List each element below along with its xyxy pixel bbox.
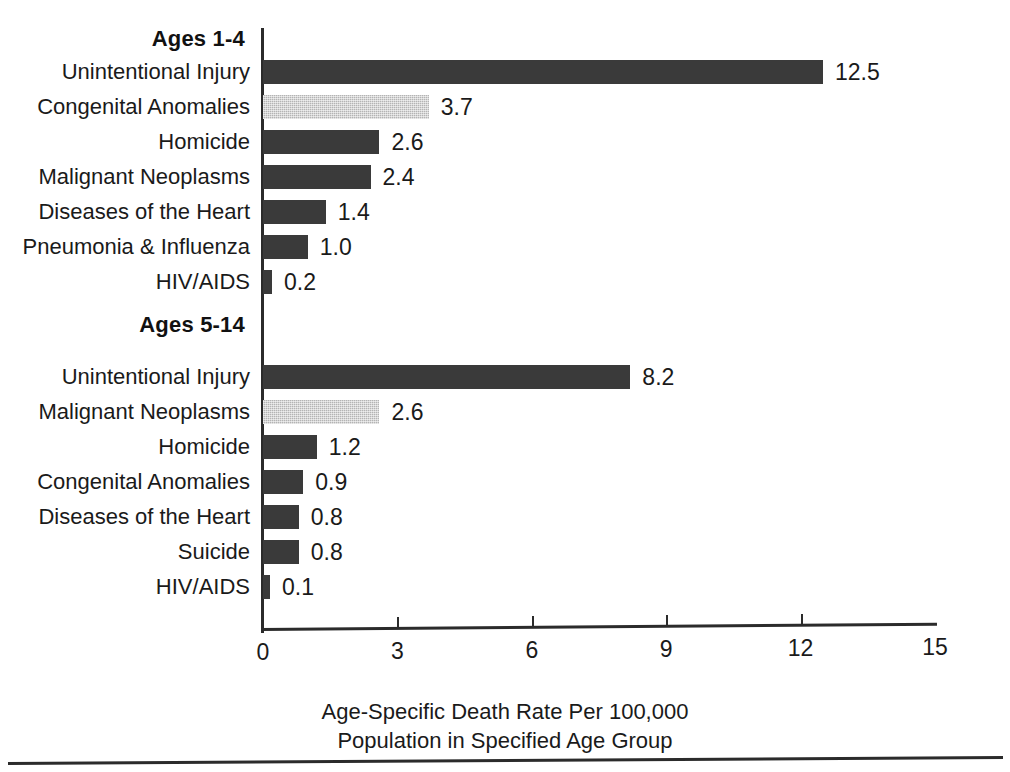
category-label: HIV/AIDS [156,269,250,295]
bar-value-label: 1.0 [320,235,352,259]
plot-area: 03691215 Ages 1-4Unintentional Injury12.… [0,0,1010,772]
bar [263,130,379,154]
bar [263,235,308,259]
x-axis-caption: Age-Specific Death Rate Per 100,000 Popu… [0,697,1010,755]
bar [263,60,823,84]
category-label: HIV/AIDS [156,574,250,600]
bar-row: HIV/AIDS0.1 [0,570,1010,605]
bar-row: Malignant Neoplasms2.4 [0,160,1010,195]
group-heading-ages-1-4: Ages 1-4 [152,26,245,52]
bottom-divider-rule [8,756,1003,765]
bar-value-label: 0.9 [315,470,347,494]
category-label: Malignant Neoplasms [38,399,250,425]
category-label: Diseases of the Heart [38,504,250,530]
bar-value-label: 2.4 [383,165,415,189]
x-axis-tick-3 [397,617,399,628]
bar-value-label: 0.1 [282,575,314,599]
category-label: Congenital Anomalies [37,469,250,495]
category-label: Suicide [178,539,250,565]
bar [263,95,429,119]
bar-row: Pneumonia & Influenza1.0 [0,230,1010,265]
value-axis-line [261,623,937,631]
bar-value-label: 2.6 [391,130,423,154]
bar-row: Homicide1.2 [0,430,1010,465]
bar-row: Malignant Neoplasms2.6 [0,395,1010,430]
x-axis-tick-label-15: 15 [905,636,965,659]
bar-row: Diseases of the Heart1.4 [0,195,1010,230]
bar [263,365,630,389]
bar-row: HIV/AIDS0.2 [0,265,1010,300]
category-label: Pneumonia & Influenza [23,234,251,260]
bar-value-label: 0.2 [284,270,316,294]
bar [263,435,317,459]
bar-value-label: 0.8 [311,505,343,529]
bar-value-label: 1.4 [338,200,370,224]
x-axis-tick-9 [666,615,668,626]
bar [263,400,379,424]
bar [263,575,270,599]
category-label: Congenital Anomalies [37,94,250,120]
category-label: Malignant Neoplasms [38,164,250,190]
bar-row: Congenital Anomalies3.7 [0,90,1010,125]
x-axis-tick-label-12: 12 [771,637,831,660]
x-axis-tick-12 [801,614,803,625]
category-label: Unintentional Injury [62,364,250,390]
category-label: Homicide [158,129,250,155]
category-label: Unintentional Injury [62,59,250,85]
bar [263,470,303,494]
bar-row: Unintentional Injury8.2 [0,360,1010,395]
bar-value-label: 0.8 [311,540,343,564]
bar [263,505,299,529]
bar-row: Homicide2.6 [0,125,1010,160]
bar-row: Diseases of the Heart0.8 [0,500,1010,535]
bar-row: Congenital Anomalies0.9 [0,465,1010,500]
x-axis-tick-label-0: 0 [233,641,293,664]
x-axis-caption-line-2: Population in Specified Age Group [0,726,1010,755]
bar [263,270,272,294]
x-axis-tick-label-9: 9 [636,638,696,661]
category-label: Diseases of the Heart [38,199,250,225]
x-axis-tick-6 [532,616,534,627]
bar [263,540,299,564]
category-label: Homicide [158,434,250,460]
bar [263,165,371,189]
bar-value-label: 8.2 [642,365,674,389]
x-axis-tick-label-6: 6 [502,639,562,662]
bar-value-label: 2.6 [391,400,423,424]
group-heading-ages-5-14: Ages 5-14 [139,312,245,338]
bar-row: Unintentional Injury12.5 [0,55,1010,90]
bar-value-label: 3.7 [441,95,473,119]
x-axis-tick-label-3: 3 [367,640,427,663]
bar-row: Suicide0.8 [0,535,1010,570]
bar [263,200,326,224]
bar-value-label: 1.2 [329,435,361,459]
bar-value-label: 12.5 [835,60,880,84]
x-axis-caption-line-1: Age-Specific Death Rate Per 100,000 [0,697,1010,726]
age-specific-death-rate-chart: 03691215 Ages 1-4Unintentional Injury12.… [0,0,1010,772]
